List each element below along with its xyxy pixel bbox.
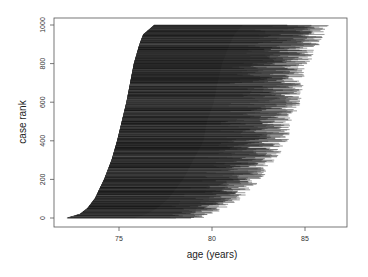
x-axis: 758085 (115, 227, 309, 242)
chart: 758085 02004006008001000 age (years) cas… (0, 0, 368, 277)
y-tick-label: 0 (39, 216, 46, 220)
y-tick-label: 800 (39, 58, 46, 70)
x-axis-title: age (years) (187, 249, 238, 260)
y-tick-label: 400 (39, 135, 46, 147)
x-tick-label: 80 (208, 235, 216, 242)
y-axis: 02004006008001000 (39, 17, 54, 220)
y-tick-label: 1000 (39, 17, 46, 33)
x-tick-label: 75 (115, 235, 123, 242)
follow-up-lines (67, 25, 329, 218)
y-tick-label: 200 (39, 173, 46, 185)
y-axis-title: case rank (17, 99, 28, 143)
y-tick-label: 600 (39, 96, 46, 108)
x-tick-label: 85 (301, 235, 309, 242)
